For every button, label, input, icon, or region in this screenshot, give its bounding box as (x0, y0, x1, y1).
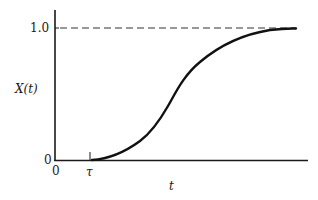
x-tick-label-tau: τ (86, 166, 93, 178)
response-curve (92, 28, 296, 160)
x-tick-label-zero: 0 (52, 165, 60, 177)
y-tick-label-top: 1.0 (30, 22, 49, 34)
y-axis-label: X(t) (15, 83, 38, 95)
y-tick-label-zero: 0 (44, 154, 52, 166)
x-axis-label: t (169, 180, 174, 192)
